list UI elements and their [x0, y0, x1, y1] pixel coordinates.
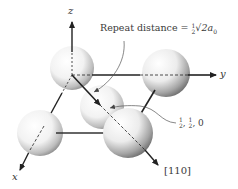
x-axis-label: x [12, 171, 18, 182]
repeat-distance-text: Repeat distance = [100, 22, 192, 33]
repeat-distance-pointer [94, 41, 124, 92]
direction-110-label: [110] [164, 165, 191, 176]
origin-atom [50, 46, 94, 90]
repeat-distance-annotation: Repeat distance = 12√2a0 [100, 22, 217, 35]
lattice-diagram: z y x Repeat distance = 12√2a0 12, 12, 0… [0, 0, 238, 189]
lattice-edge-y [140, 90, 155, 115]
z-axis-label: z [68, 5, 73, 16]
y-axis-atom [142, 49, 190, 97]
repeat-distance-subscript: 0 [213, 28, 217, 35]
y-axis-label: y [220, 68, 226, 79]
repeat-distance-value: √2a [195, 22, 213, 33]
face-center-coordinates: 12, 12, 0 [179, 117, 204, 129]
